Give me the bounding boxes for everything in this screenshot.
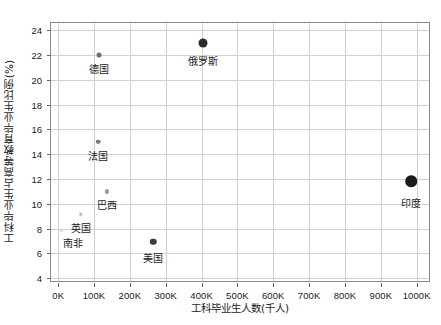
data-point[interactable]	[79, 213, 82, 216]
x-axis-tick	[130, 283, 131, 287]
y-axis-tick	[47, 105, 51, 106]
data-point[interactable]	[96, 140, 101, 145]
y-axis-tick-label: 8	[37, 223, 42, 234]
y-axis-tick-label: 6	[37, 248, 42, 259]
gridline-vertical	[273, 23, 274, 281]
data-point[interactable]	[60, 229, 63, 232]
x-axis-tick	[417, 283, 418, 287]
data-point-label: 巴西	[97, 197, 117, 212]
y-axis-tick	[47, 55, 51, 56]
y-axis-tick-label: 4	[37, 273, 42, 284]
gridline-vertical	[381, 23, 382, 281]
data-point[interactable]	[406, 176, 418, 188]
y-axis-tick-label: 20	[31, 74, 42, 85]
data-point[interactable]	[150, 238, 157, 245]
y-axis-tick	[47, 129, 51, 130]
y-axis-tick	[47, 30, 51, 31]
data-point-label: 印度	[401, 195, 421, 210]
data-point-label: 南非	[63, 235, 83, 250]
gridline-horizontal	[51, 253, 429, 254]
gridline-horizontal	[51, 105, 429, 106]
y-axis-tick	[47, 204, 51, 205]
data-point[interactable]	[199, 38, 208, 47]
y-axis-tick	[47, 253, 51, 254]
x-axis-tick	[58, 283, 59, 287]
gridline-vertical	[345, 23, 346, 281]
data-point-label: 法国	[88, 148, 108, 163]
data-point-label: 英国	[71, 220, 91, 235]
y-axis-tick-label: 14	[31, 149, 42, 160]
gridline-horizontal	[51, 129, 429, 130]
data-point-label: 美国	[143, 250, 163, 265]
gridline-horizontal	[51, 30, 429, 31]
y-axis-tick	[47, 179, 51, 180]
gridline-vertical	[417, 23, 418, 281]
x-axis-tick	[166, 283, 167, 287]
x-axis-tick	[381, 283, 382, 287]
y-axis-tick-label: 10	[31, 198, 42, 209]
x-axis-tick	[273, 283, 274, 287]
y-axis-tick-label: 12	[31, 174, 42, 185]
x-axis-tick	[237, 283, 238, 287]
gridline-horizontal	[51, 55, 429, 56]
y-axis-tick	[47, 229, 51, 230]
gridline-horizontal	[51, 179, 429, 180]
y-axis-title: 工科毕业生占高等教育毕业生比例(%)	[2, 22, 15, 282]
y-axis-tick-label: 16	[31, 124, 42, 135]
y-axis-title-text: 工科毕业生占高等教育毕业生比例(%)	[1, 60, 16, 243]
scatter-chart: 0K100K200K300K400K500K600K700K800K900K10…	[0, 0, 441, 325]
y-axis-tick	[47, 154, 51, 155]
gridline-horizontal	[51, 229, 429, 230]
gridline-vertical	[309, 23, 310, 281]
x-axis-tick	[94, 283, 95, 287]
plot-area: 0K100K200K300K400K500K600K700K800K900K10…	[50, 22, 430, 282]
gridline-horizontal	[51, 80, 429, 81]
y-axis-tick	[47, 80, 51, 81]
gridline-vertical	[130, 23, 131, 281]
y-axis-tick	[47, 278, 51, 279]
gridline-vertical	[237, 23, 238, 281]
x-axis-tick	[345, 283, 346, 287]
x-axis-tick	[202, 283, 203, 287]
gridline-vertical	[58, 23, 59, 281]
gridline-vertical	[166, 23, 167, 281]
data-point-label: 德国	[89, 61, 109, 76]
gridline-horizontal	[51, 278, 429, 279]
y-axis-tick-label: 18	[31, 99, 42, 110]
y-axis-tick-label: 22	[31, 50, 42, 61]
data-point[interactable]	[105, 189, 109, 193]
x-axis-title: 工科毕业生人数(千人)	[50, 300, 430, 315]
x-axis-tick	[309, 283, 310, 287]
data-point-label: 俄罗斯	[188, 53, 218, 68]
data-point[interactable]	[97, 52, 102, 57]
y-axis-tick-label: 24	[31, 25, 42, 36]
